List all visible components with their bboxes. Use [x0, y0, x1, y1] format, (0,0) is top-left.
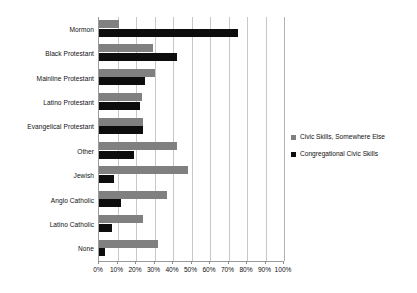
bar-group — [99, 139, 284, 163]
square-marker-black-icon — [291, 152, 296, 157]
bar-civic-skills-somewhere-else — [99, 118, 143, 126]
square-marker-gray-icon — [291, 135, 296, 140]
category-label: Jewish — [0, 172, 94, 179]
bar-group — [99, 188, 284, 212]
bar-civic-skills-somewhere-else — [99, 93, 142, 101]
gridline — [284, 17, 285, 261]
category-label: Mainline Protestant — [0, 75, 94, 82]
plot-area — [98, 17, 284, 262]
bar-congregational-civic-skills — [99, 53, 177, 61]
axis-tick — [283, 261, 284, 264]
bar-congregational-civic-skills — [99, 151, 134, 159]
axis-tick — [191, 261, 192, 264]
axis-tick — [209, 261, 210, 264]
bar-congregational-civic-skills — [99, 224, 112, 232]
legend-item: Congregational Civic Skills — [291, 148, 415, 160]
bar-group — [99, 163, 284, 187]
bar-congregational-civic-skills — [99, 248, 105, 256]
bar-civic-skills-somewhere-else — [99, 240, 158, 248]
value-axis: 0%10%20%30%40%50%60%70%80%90%100% — [98, 261, 284, 285]
category-axis: MormonBlack ProtestantMainline Protestan… — [0, 17, 94, 261]
axis-tick — [172, 261, 173, 264]
bar-group — [99, 237, 284, 261]
bar-congregational-civic-skills — [99, 77, 145, 85]
category-label: Latino Catholic — [0, 221, 94, 228]
bar-group — [99, 17, 284, 41]
axis-tick — [265, 261, 266, 264]
axis-tick — [154, 261, 155, 264]
bar-congregational-civic-skills — [99, 102, 140, 110]
bar-civic-skills-somewhere-else — [99, 142, 177, 150]
bar-congregational-civic-skills — [99, 199, 121, 207]
bar-group — [99, 115, 284, 139]
category-label: Anglo Catholic — [0, 197, 94, 204]
category-label: Mormon — [0, 26, 94, 33]
bar-chart: MormonBlack ProtestantMainline Protestan… — [0, 0, 417, 293]
bar-group — [99, 212, 284, 236]
legend-label: Congregational Civic Skills — [300, 150, 378, 158]
bar-civic-skills-somewhere-else — [99, 215, 143, 223]
bar-civic-skills-somewhere-else — [99, 191, 167, 199]
axis-tick — [135, 261, 136, 264]
category-label: Evangelical Protestant — [0, 123, 94, 130]
axis-tick — [117, 261, 118, 264]
category-label: Black Protestant — [0, 50, 94, 57]
legend-label: Civic Skills, Somewhere Else — [300, 133, 385, 141]
bar-civic-skills-somewhere-else — [99, 20, 119, 28]
category-label: None — [0, 245, 94, 252]
bar-group — [99, 90, 284, 114]
bar-civic-skills-somewhere-else — [99, 69, 155, 77]
bar-civic-skills-somewhere-else — [99, 166, 188, 174]
category-label: Latino Protestant — [0, 99, 94, 106]
chart-legend: Civic Skills, Somewhere ElseCongregation… — [291, 131, 415, 165]
axis-tick — [246, 261, 247, 264]
bar-group — [99, 41, 284, 65]
bar-congregational-civic-skills — [99, 29, 238, 37]
axis-tick — [228, 261, 229, 264]
axis-tick — [98, 261, 99, 264]
bar-congregational-civic-skills — [99, 175, 114, 183]
bar-group — [99, 66, 284, 90]
bar-civic-skills-somewhere-else — [99, 44, 153, 52]
legend-item: Civic Skills, Somewhere Else — [291, 131, 415, 143]
category-label: Other — [0, 148, 94, 155]
axis-tick-label: 100% — [270, 266, 296, 274]
bar-congregational-civic-skills — [99, 126, 143, 134]
